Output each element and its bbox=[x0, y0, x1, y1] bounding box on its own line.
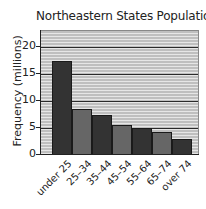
x-axis-line bbox=[40, 154, 199, 155]
bar bbox=[92, 115, 112, 155]
gridline bbox=[41, 47, 198, 48]
y-tick-mark bbox=[36, 127, 41, 128]
y-axis-line bbox=[40, 30, 41, 155]
bar bbox=[172, 139, 192, 155]
y-tick-label: 15 bbox=[20, 66, 36, 79]
y-tick-label: 10 bbox=[20, 93, 36, 106]
y-tick-mark bbox=[36, 154, 41, 155]
y-tick-mark bbox=[36, 100, 41, 101]
y-tick-mark bbox=[36, 46, 41, 47]
bar bbox=[52, 61, 72, 155]
chart-title: Northeastern States Population bbox=[36, 9, 202, 23]
bar bbox=[152, 132, 172, 155]
bar bbox=[132, 128, 152, 155]
plot-area bbox=[41, 30, 199, 155]
y-tick-label: 5 bbox=[20, 120, 36, 133]
y-tick-label: 0 bbox=[20, 147, 36, 160]
y-tick-mark bbox=[36, 73, 41, 74]
bar bbox=[72, 109, 92, 155]
bar bbox=[112, 125, 132, 155]
y-tick-label: 20 bbox=[20, 39, 36, 52]
bar-chart: Northeastern States Population Frequency… bbox=[0, 0, 206, 209]
